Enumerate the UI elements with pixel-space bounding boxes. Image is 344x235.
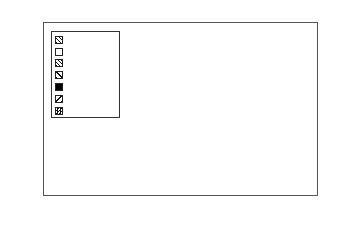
swatch-nuclear-icon bbox=[55, 71, 63, 79]
legend-item-coal[interactable] bbox=[55, 81, 116, 93]
y-axis bbox=[0, 0, 43, 235]
legend-item-renewable[interactable] bbox=[55, 46, 116, 58]
swatch-hydro-icon bbox=[55, 59, 63, 67]
swatch-coal-icon bbox=[55, 83, 63, 91]
swatch-oil-icon bbox=[55, 107, 63, 115]
swatch-gas-icon bbox=[55, 95, 63, 103]
legend-item-gas[interactable] bbox=[55, 93, 116, 105]
energy-consumption-chart bbox=[0, 0, 344, 235]
legend bbox=[51, 31, 120, 118]
legend-item-hydro[interactable] bbox=[55, 58, 116, 70]
legend-item-firewood[interactable] bbox=[55, 34, 116, 46]
legend-item-oil[interactable] bbox=[55, 105, 116, 117]
swatch-renewable-icon bbox=[55, 48, 63, 56]
legend-item-nuclear[interactable] bbox=[55, 69, 116, 81]
swatch-firewood-icon bbox=[55, 36, 63, 44]
